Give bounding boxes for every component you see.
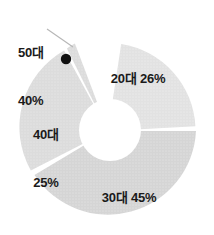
slice-label-20dae: 20대 26%: [97, 57, 165, 101]
slice-label-40dae-value: 25%: [33, 175, 59, 191]
slice-label-50dae-category: 50대: [18, 45, 44, 61]
slice-label-30dae-text: 30대 45%: [102, 190, 157, 205]
callout-leader-line: [47, 29, 73, 47]
slice-label-50dae: 50대 40%: [18, 12, 44, 142]
slice-label-50dae-value: 40%: [18, 93, 44, 109]
age-distribution-donut-chart: 20대 26% 30대 45% 40대 25% 50대 40%: [0, 0, 214, 235]
donut-hole: [79, 99, 141, 161]
slice-marker-dot: [61, 54, 71, 64]
slice-label-20dae-text: 20대 26%: [111, 71, 166, 86]
slice-label-30dae: 30대 45%: [88, 176, 156, 220]
